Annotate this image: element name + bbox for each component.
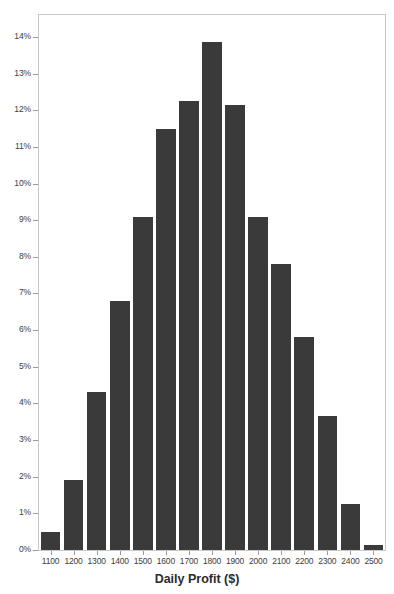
y-axis-tick-label: 3% (19, 434, 31, 444)
x-axis-tick: 1700 (177, 551, 200, 573)
y-axis: 0%1%2%3%4%5%6%7%8%9%10%11%12%13%14% (0, 14, 38, 551)
y-axis-tick-label: 8% (19, 251, 31, 261)
histogram-chart: 0%1%2%3%4%5%6%7%8%9%10%11%12%13%14% 1100… (0, 0, 394, 594)
bar-slot (177, 15, 200, 550)
x-axis-tick-label: 2200 (293, 556, 316, 566)
bar-slot (247, 15, 270, 550)
x-axis-tick-mark (166, 551, 167, 555)
bar-slot (224, 15, 247, 550)
x-axis-tick: 1100 (39, 551, 62, 573)
y-axis-tick-mark (33, 37, 38, 38)
x-axis-tick-label: 1700 (177, 556, 200, 566)
x-axis-tick-mark (51, 551, 52, 555)
bar-slot (154, 15, 177, 550)
y-axis-tick-label: 1% (19, 507, 31, 517)
x-axis-tick-mark (281, 551, 282, 555)
bar-slot (62, 15, 85, 550)
x-axis-tick: 2100 (270, 551, 293, 573)
x-axis-tick: 1500 (131, 551, 154, 573)
y-axis-tick-mark (33, 293, 38, 294)
bar[interactable] (133, 217, 153, 550)
y-axis-tick-label: 9% (19, 214, 31, 224)
y-axis-tick-mark (33, 74, 38, 75)
x-axis: 1100120013001400150016001700180019002000… (39, 551, 385, 573)
bar[interactable] (271, 264, 291, 550)
x-axis-tick-label: 2000 (247, 556, 270, 566)
x-axis-tick-mark (327, 551, 328, 555)
x-axis-tick-label: 1900 (224, 556, 247, 566)
bar[interactable] (41, 532, 61, 550)
x-axis-tick-label: 1300 (85, 556, 108, 566)
y-axis-tick-label: 10% (14, 178, 31, 188)
x-axis-tick: 1600 (154, 551, 177, 573)
bar[interactable] (248, 217, 268, 550)
x-axis-tick-mark (74, 551, 75, 555)
y-axis-tick-label: 2% (19, 471, 31, 481)
bar-slot (362, 15, 385, 550)
x-axis-tick-label: 1600 (154, 556, 177, 566)
bar[interactable] (364, 545, 384, 550)
x-axis-tick-label: 2100 (270, 556, 293, 566)
y-axis-tick-mark (33, 367, 38, 368)
y-axis-tick-mark (33, 257, 38, 258)
x-axis-tick-label: 2500 (362, 556, 385, 566)
bar-slot (131, 15, 154, 550)
bar[interactable] (64, 480, 84, 550)
bar[interactable] (87, 392, 107, 550)
x-axis-tick: 2300 (316, 551, 339, 573)
x-axis-tick: 1900 (224, 551, 247, 573)
y-axis-tick-mark (33, 477, 38, 478)
bar-slot (270, 15, 293, 550)
bar-slot (293, 15, 316, 550)
bar-slot (39, 15, 62, 550)
x-axis-tick: 2000 (247, 551, 270, 573)
x-axis-tick-label: 1800 (200, 556, 223, 566)
x-axis-tick: 2400 (339, 551, 362, 573)
bar[interactable] (202, 42, 222, 550)
x-axis-tick-mark (189, 551, 190, 555)
x-axis-tick-mark (120, 551, 121, 555)
y-axis-tick-label: 13% (14, 68, 31, 78)
x-axis-tick-mark (304, 551, 305, 555)
x-axis-tick-label: 2300 (316, 556, 339, 566)
y-axis-tick-mark (33, 513, 38, 514)
x-axis-tick: 2200 (293, 551, 316, 573)
bars-layer (39, 15, 385, 550)
bar[interactable] (318, 416, 338, 550)
bar[interactable] (179, 101, 199, 550)
x-axis-tick-mark (373, 551, 374, 555)
x-axis-tick-mark (350, 551, 351, 555)
x-axis-tick-label: 1100 (39, 556, 62, 566)
y-axis-tick-mark (33, 110, 38, 111)
bar[interactable] (110, 301, 130, 550)
y-axis-tick-label: 12% (14, 104, 31, 114)
y-axis-tick-mark (33, 184, 38, 185)
bar[interactable] (156, 129, 176, 550)
y-axis-tick-label: 5% (19, 361, 31, 371)
x-axis-tick-label: 1500 (131, 556, 154, 566)
x-axis-tick-mark (97, 551, 98, 555)
x-axis-title: Daily Profit ($) (0, 572, 394, 586)
y-axis-tick-mark (33, 550, 38, 551)
x-axis-tick-mark (212, 551, 213, 555)
y-axis-tick-mark (33, 330, 38, 331)
bar[interactable] (294, 337, 314, 550)
y-axis-tick-mark (33, 440, 38, 441)
bar-slot (108, 15, 131, 550)
x-axis-tick-mark (258, 551, 259, 555)
bar[interactable] (225, 105, 245, 550)
bar-slot (316, 15, 339, 550)
x-axis-tick-label: 1200 (62, 556, 85, 566)
y-axis-tick-mark (33, 147, 38, 148)
x-axis-tick-mark (235, 551, 236, 555)
y-axis-tick-label: 7% (19, 287, 31, 297)
bar-slot (200, 15, 223, 550)
bar-slot (85, 15, 108, 550)
y-axis-tick-mark (33, 403, 38, 404)
y-axis-tick-label: 0% (19, 544, 31, 554)
x-axis-tick-mark (143, 551, 144, 555)
bar[interactable] (341, 504, 361, 550)
bar-slot (339, 15, 362, 550)
y-axis-tick-label: 14% (14, 31, 31, 41)
x-axis-tick-label: 2400 (339, 556, 362, 566)
